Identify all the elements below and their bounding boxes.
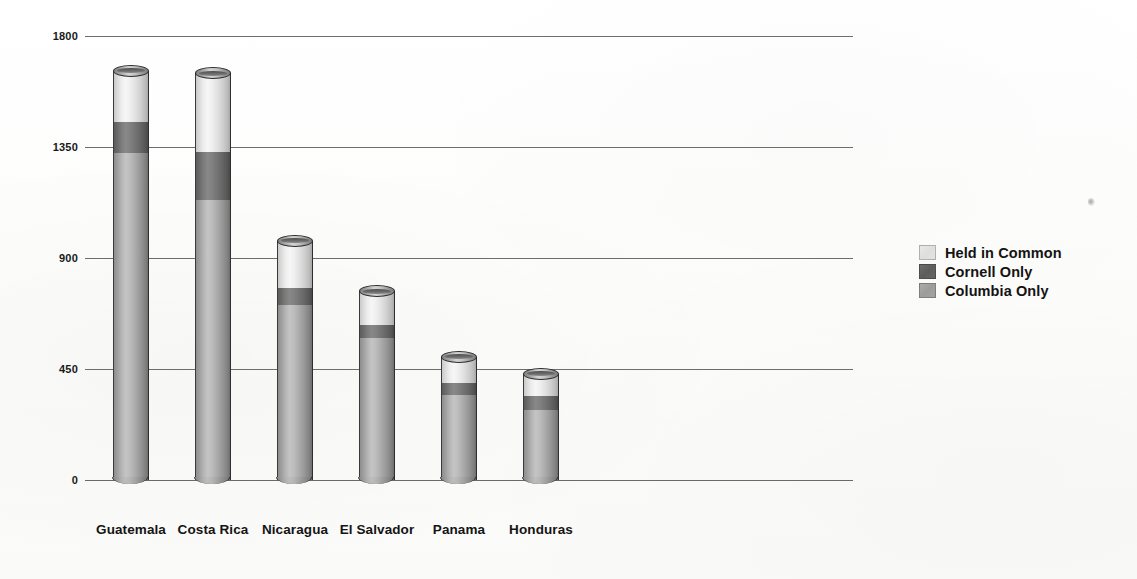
- legend-swatch-cornell: [919, 264, 936, 279]
- bar-segment-columbia: [359, 338, 395, 480]
- y-tick: 1800: [0, 30, 78, 42]
- bar-segment-columbia: [113, 153, 149, 480]
- cylinder-cap-inner: [199, 71, 227, 76]
- legend-label: Held in Common: [945, 245, 1062, 261]
- bar-segment-common: [113, 71, 149, 123]
- y-tick: 900: [0, 252, 78, 264]
- cylinder-cap-inner: [527, 371, 555, 376]
- y-tick-label: 0: [26, 474, 78, 486]
- legend-swatch-columbia: [919, 283, 936, 298]
- legend-item-columbia: Columbia Only: [919, 281, 1109, 300]
- cylinder-top-cap: [195, 67, 231, 79]
- bar-nicaragua: [277, 0, 313, 480]
- y-tick: 1350: [0, 141, 78, 153]
- cylinder-top-cap: [359, 285, 395, 297]
- legend-label: Columbia Only: [945, 283, 1049, 299]
- bar-segment-cornell: [277, 288, 313, 305]
- bar-segment-cornell: [113, 122, 149, 153]
- cylinder-bottom: [112, 477, 148, 484]
- scan-artifact-speck: [1088, 198, 1095, 206]
- cylinder-cap-inner: [117, 68, 145, 73]
- legend-item-cornell: Cornell Only: [919, 262, 1109, 281]
- bar-segment-cornell: [523, 396, 559, 410]
- plot-area: 045090013501800 GuatemalaCosta RicaNicar…: [0, 0, 900, 579]
- cylinder-top-cap: [113, 65, 149, 77]
- chart-legend: Held in CommonCornell OnlyColumbia Only: [919, 243, 1109, 300]
- bar-costa-rica: [195, 0, 231, 480]
- bar-honduras: [523, 0, 559, 480]
- x-tick-label-honduras: Honduras: [471, 522, 611, 537]
- y-tick-label: 1800: [26, 30, 78, 42]
- cylinder-top-cap: [441, 351, 477, 363]
- cylinder-bottom: [276, 477, 312, 484]
- bar-guatemala: [113, 0, 149, 480]
- cylinder-cap-inner: [281, 238, 309, 243]
- bar-segment-columbia: [277, 305, 313, 480]
- bar-el-salvador: [359, 0, 395, 480]
- cylinder-top-cap: [277, 235, 313, 247]
- y-tick-label: 1350: [26, 141, 78, 153]
- bar-panama: [441, 0, 477, 480]
- bar-segment-common: [441, 357, 477, 383]
- bar-segment-cornell: [195, 152, 231, 200]
- bar-segment-common: [523, 374, 559, 396]
- y-tick: 450: [0, 363, 78, 375]
- legend-label: Cornell Only: [945, 264, 1032, 280]
- y-tick-label: 450: [26, 363, 78, 375]
- cylinder-bottom: [194, 477, 230, 484]
- y-tick: 0: [0, 474, 78, 486]
- cylinder-cap-inner: [445, 354, 473, 359]
- bar-segment-common: [359, 291, 395, 324]
- bar-segment-common: [195, 73, 231, 152]
- legend-item-common: Held in Common: [919, 243, 1109, 262]
- cylinder-bottom: [358, 477, 394, 484]
- bar-segment-columbia: [195, 200, 231, 480]
- cylinder-bottom: [522, 477, 558, 484]
- cylinder-top-cap: [523, 368, 559, 380]
- bar-segment-columbia: [523, 410, 559, 480]
- cylinder-bottom: [440, 477, 476, 484]
- bar-segment-cornell: [359, 325, 395, 339]
- stacked-bar-chart: 045090013501800 GuatemalaCosta RicaNicar…: [0, 0, 1137, 579]
- bar-segment-common: [277, 241, 313, 288]
- bar-segment-cornell: [441, 383, 477, 395]
- y-tick-label: 900: [26, 252, 78, 264]
- legend-swatch-common: [919, 245, 936, 260]
- cylinder-cap-inner: [363, 289, 391, 294]
- bar-segment-columbia: [441, 395, 477, 480]
